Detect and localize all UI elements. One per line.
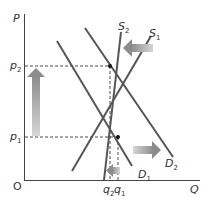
price-label-p2: p2: [10, 60, 21, 74]
price-label-p1: p1: [10, 131, 21, 145]
equilibrium-point-new: [108, 64, 112, 68]
price-increase-arrow-icon: [27, 68, 45, 136]
quantity-label-q1: q1: [114, 184, 125, 198]
curve-label-s2: S2: [118, 21, 129, 35]
curve-label-d2: D2: [165, 158, 178, 172]
equilibrium-point-initial: [116, 135, 120, 139]
quantity-decrease-arrow-icon: [106, 164, 120, 177]
demand-shift-right-arrow-icon: [133, 141, 161, 159]
x-axis-label: Q: [190, 184, 199, 195]
demand-curve-d1: [57, 41, 132, 166]
origin-label: O: [13, 181, 22, 192]
curve-label-d1: D1: [138, 169, 151, 183]
y-axis-label: P: [13, 13, 20, 24]
curve-label-s1: S1: [149, 28, 160, 42]
supply-demand-diagram: [0, 0, 212, 204]
quantity-label-q2: q2: [103, 184, 114, 198]
